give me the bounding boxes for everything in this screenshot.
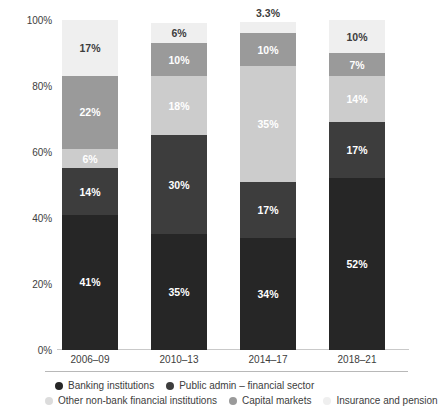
bar-segment[interactable]: 6% [151,23,207,43]
y-axis-tick-label: 20% [0,279,52,290]
bar-segment[interactable]: 7% [329,53,385,76]
bar-segment[interactable]: 18% [151,76,207,135]
bar-segment[interactable]: 17% [62,20,118,76]
bar-segment-label: 52% [346,258,367,270]
legend-item[interactable]: Public admin – financial sector [166,379,314,392]
legend-swatch-icon [45,397,53,405]
legend-item-label: Other non-bank financial institutions [58,394,217,407]
bar-segment[interactable]: 22% [62,76,118,149]
bar-segment-label: 41% [79,276,100,288]
bar-segment-label: 10% [257,44,278,56]
bar-segment-label: 17% [79,42,100,54]
legend-item-label: Banking institutions [68,379,154,392]
bar-2006–09[interactable]: 17%22%6%14%41% [62,20,118,350]
bar-segment-label: 35% [168,286,189,298]
y-axis: 0%20%40%60%80%100% [0,20,52,350]
legend-row: Other non-bank financial institutionsCap… [45,393,408,408]
legend-item-label: Capital markets [242,394,311,407]
bar-segment-label: 6% [82,153,97,165]
bar-segment[interactable]: 14% [329,76,385,122]
bar-2018–21[interactable]: 10%7%14%17%52% [329,20,385,350]
bar-segment-label: 17% [346,144,367,156]
y-axis-tick-label: 60% [0,147,52,158]
bar-segment-label: 35% [257,118,278,130]
bar-segment-label: 22% [79,106,100,118]
legend-item-label: Insurance and pension [336,394,437,407]
bar-segment-label: 3.3% [240,7,296,19]
bar-segment-label: 14% [79,186,100,198]
bar-segment[interactable]: 35% [151,234,207,349]
x-axis-tick-label: 2014–17 [240,354,296,365]
y-axis-tick-label: 80% [0,81,52,92]
legend-swatch-icon [323,397,331,405]
bar-segment[interactable]: 17% [329,122,385,178]
legend-swatch-icon [229,397,237,405]
bar-segment[interactable]: 14% [62,168,118,214]
bar-segment-label: 10% [168,54,189,66]
x-axis-tick-label: 2010–13 [151,354,207,365]
bar-segment[interactable]: 17% [240,182,296,238]
bar-segment-label: 6% [171,27,186,39]
y-axis-tick-label: 100% [0,15,52,26]
x-axis-tick-label: 2006–09 [62,354,118,365]
y-axis-tick-label: 0% [0,345,52,356]
bar-segment[interactable]: 52% [329,178,385,350]
bar-segment[interactable]: 41% [62,215,118,350]
bar-2010–13[interactable]: 6%10%18%30%35% [151,23,207,350]
y-axis-tick-label: 40% [0,213,52,224]
legend-item[interactable]: Other non-bank financial institutions [45,394,217,407]
x-axis-tick-label: 2018–21 [329,354,385,365]
legend-item[interactable]: Banking institutions [55,379,154,392]
bar-segment-label: 14% [346,93,367,105]
legend-row: Banking institutionsPublic admin – finan… [45,378,408,393]
bar-segment[interactable]: 3.3% [240,22,296,33]
bar-segment-label: 18% [168,100,189,112]
legend-swatch-icon [55,382,63,390]
bar-segment[interactable]: 34% [240,238,296,350]
bar-segment[interactable]: 10% [151,43,207,76]
legend-item[interactable]: Capital markets [229,394,311,407]
chart-legend: Banking institutionsPublic admin – finan… [45,371,408,408]
bar-segment-label: 34% [257,288,278,300]
bar-segment-label: 10% [346,31,367,43]
legend-rows: Banking institutionsPublic admin – finan… [45,372,408,408]
legend-swatch-icon [166,382,174,390]
bar-segment[interactable]: 35% [240,66,296,181]
legend-item[interactable]: Insurance and pension [323,394,437,407]
bar-segment[interactable]: 6% [62,149,118,169]
bar-segment[interactable]: 30% [151,135,207,234]
bar-segment-label: 7% [349,59,364,71]
bar-segment[interactable]: 10% [329,20,385,53]
bar-segment-label: 30% [168,179,189,191]
plot-area: 17%22%6%14%41%6%10%18%30%35%3.3%10%35%17… [57,20,412,350]
bar-segment-label: 17% [257,204,278,216]
bar-2014–17[interactable]: 3.3%10%35%17%34% [240,22,296,350]
bar-segment[interactable]: 10% [240,33,296,66]
legend-item-label: Public admin – financial sector [179,379,314,392]
